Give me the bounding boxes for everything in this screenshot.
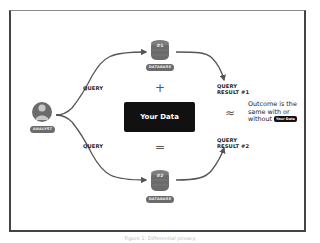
approx-operator: ≈ [220, 106, 240, 120]
your-data-badge: Your Data [274, 116, 297, 122]
database-1-number: #1 [152, 43, 168, 48]
outcome-text: Outcome is the same with or without Your… [248, 101, 297, 124]
analyst-label: ANALYST [30, 126, 55, 133]
query-top-label: QUERY [83, 85, 103, 91]
outcome-line-3: without [248, 115, 272, 123]
query-result-2-line2: RESULT #2 [217, 143, 249, 149]
query-bottom-label: QUERY [83, 143, 103, 149]
database-2-label: DATABASE [146, 196, 174, 203]
query-result-1-line2: RESULT #1 [217, 89, 249, 95]
database-1-label: DATABASE [146, 64, 174, 71]
analyst-avatar-icon [32, 102, 52, 122]
database-2-number: #2 [152, 173, 168, 178]
your-data-box: Your Data [124, 102, 195, 132]
plus-operator: + [150, 81, 170, 95]
equals-operator: = [150, 140, 170, 154]
figure-caption: Figure 1: Differential privacy [100, 235, 220, 241]
